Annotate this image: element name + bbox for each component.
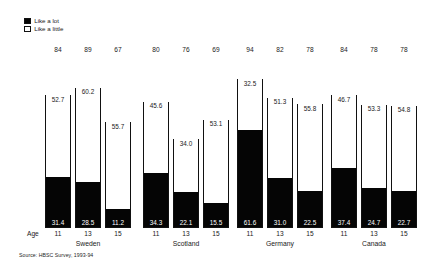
axis-tick-age: 13 [361,230,387,237]
bar-value-like-a-lot: 31.0 [268,219,292,226]
axis-tick-age: 11 [45,230,71,237]
bar-value-like-a-little: 32.5 [238,80,262,87]
bar-group-sweden: 8452.731.48960.228.56755.711.2 [45,46,135,228]
axis-group-label-canada: Canada [331,240,417,247]
bar-value-like-a-little: 53.3 [362,105,386,112]
bar-segment-like-a-little[interactable]: 32.5 [238,78,262,129]
bar-slot: 32.561.6 [237,46,263,228]
bar-value-like-a-little: 51.3 [268,98,292,105]
bar-value-like-a-little: 55.8 [298,105,322,112]
stacked-bar[interactable]: 34.022.1 [173,139,199,228]
stacked-bar[interactable]: 55.711.2 [105,122,131,228]
stacked-bar[interactable]: 32.561.6 [237,79,263,228]
bar-slot: 51.331.0 [267,46,293,228]
bar-segment-like-a-lot[interactable]: 22.7 [392,191,416,227]
axis-row-label-age: Age [27,230,39,237]
bar-segment-like-a-little[interactable]: 54.8 [392,105,416,192]
legend-swatch-hollow-icon [24,26,31,32]
bar-segment-like-a-lot[interactable]: 37.4 [332,168,356,227]
legend-item-like-a-little: Like a little [24,25,63,33]
bar-segment-like-a-little[interactable]: 55.7 [106,121,130,209]
bar-segment-like-a-lot[interactable]: 28.5 [76,182,100,227]
bar-slot: 52.731.4 [45,46,71,228]
bar-slot: 60.228.5 [75,46,101,228]
axis-group-label-sweden: Sweden [45,240,131,247]
axis-tick-age: 13 [75,230,101,237]
bar-segment-like-a-little[interactable]: 34.0 [174,138,198,192]
bar-value-like-a-little: 60.2 [76,88,100,95]
bar-value-like-a-lot: 15.5 [204,219,228,226]
bar-segment-like-a-little[interactable]: 46.7 [332,94,356,168]
bar-value-like-a-lot: 37.4 [332,219,356,226]
axis-tick-age: 11 [143,230,169,237]
bar-value-like-a-little: 54.8 [392,106,416,113]
bar-segment-like-a-lot[interactable]: 34.3 [144,173,168,227]
stacked-bar[interactable]: 46.737.4 [331,95,357,228]
bar-value-like-a-lot: 61.6 [238,219,262,226]
bar-slot: 55.822.5 [297,46,323,228]
bar-value-like-a-lot: 28.5 [76,219,100,226]
bar-value-like-a-lot: 22.1 [174,219,198,226]
bar-segment-like-a-little[interactable]: 55.8 [298,103,322,191]
stacked-bar[interactable]: 54.822.7 [391,106,417,228]
bar-slot: 54.822.7 [391,46,417,228]
bar-segment-like-a-lot[interactable]: 22.1 [174,192,198,227]
bar-group-germany: 9432.561.68251.331.07855.822.5 [237,46,327,228]
axis-tick-age: 13 [267,230,293,237]
legend-swatch-filled-icon [24,18,31,24]
axis-tick-age: 15 [203,230,229,237]
bar-value-like-a-lot: 22.7 [392,219,416,226]
bar-group-canada: 8446.737.47853.324.77854.822.7 [331,46,421,228]
bar-slot: 34.022.1 [173,46,199,228]
bar-value-like-a-little: 52.7 [46,96,70,103]
bar-value-like-a-lot: 24.7 [362,219,386,226]
bar-segment-like-a-little[interactable]: 53.3 [362,104,386,188]
chart-plot-area: 8452.731.48960.228.56755.711.28045.634.3… [0,46,413,228]
bar-group-scotland: 8045.634.37634.022.16953.115.5 [143,46,233,228]
bar-segment-like-a-lot[interactable]: 31.4 [46,177,70,227]
stacked-bar[interactable]: 53.115.5 [203,120,229,228]
bar-slot: 46.737.4 [331,46,357,228]
chart-source-note: Source: HBSC Survey, 1993-94 [19,252,93,258]
stacked-bar[interactable]: 51.331.0 [267,98,293,228]
bar-slot: 53.324.7 [361,46,387,228]
bar-segment-like-a-little[interactable]: 51.3 [268,97,292,178]
axis-tick-age: 15 [391,230,417,237]
axis-tick-age: 15 [297,230,323,237]
bar-value-like-a-little: 55.7 [106,123,130,130]
bar-value-like-a-lot: 22.5 [298,219,322,226]
bar-value-like-a-lot: 34.3 [144,219,168,226]
legend-label-like-a-lot: Like a lot [34,17,59,25]
bar-segment-like-a-little[interactable]: 53.1 [204,119,228,203]
bar-segment-like-a-lot[interactable]: 24.7 [362,188,386,227]
stacked-bar[interactable]: 53.324.7 [361,105,387,228]
bar-slot: 45.634.3 [143,46,169,228]
stacked-bar[interactable]: 55.822.5 [297,104,323,228]
bar-segment-like-a-lot[interactable]: 31.0 [268,178,292,227]
axis-tick-age: 15 [105,230,131,237]
axis-group-label-scotland: Scotland [143,240,229,247]
bar-value-like-a-little: 45.6 [144,102,168,109]
axis-tick-age: 11 [237,230,263,237]
bar-slot: 55.711.2 [105,46,131,228]
bar-value-like-a-little: 53.1 [204,120,228,127]
bar-segment-like-a-lot[interactable]: 61.6 [238,130,262,227]
bar-value-like-a-lot: 11.2 [106,219,130,226]
axis-tick-age: 11 [331,230,357,237]
bar-value-like-a-lot: 31.4 [46,219,70,226]
chart-x-axis: Age 111315Sweden111315Scotland111315Germ… [0,230,413,254]
bar-segment-like-a-little[interactable]: 52.7 [46,94,70,177]
axis-tick-age: 13 [173,230,199,237]
stacked-bar[interactable]: 60.228.5 [75,88,101,228]
bar-slot: 53.115.5 [203,46,229,228]
bar-segment-like-a-little[interactable]: 60.2 [76,87,100,182]
bar-segment-like-a-little[interactable]: 45.6 [144,101,168,173]
legend-label-like-a-little: Like a little [34,25,63,33]
axis-group-label-germany: Germany [237,240,323,247]
legend-item-like-a-lot: Like a lot [24,17,63,25]
bar-segment-like-a-lot[interactable]: 22.5 [298,191,322,227]
bar-segment-like-a-lot[interactable]: 15.5 [204,203,228,227]
bar-segment-like-a-lot[interactable]: 11.2 [106,209,130,227]
stacked-bar[interactable]: 45.634.3 [143,102,169,228]
stacked-bar[interactable]: 52.731.4 [45,95,71,228]
